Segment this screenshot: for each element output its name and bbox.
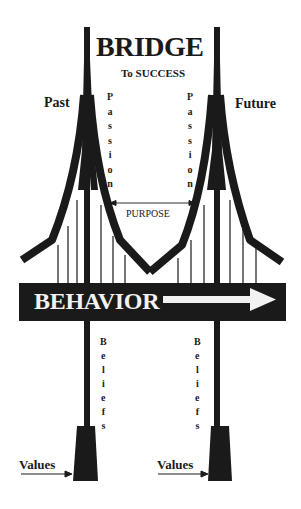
future-label: Future — [235, 97, 276, 111]
right-tower — [214, 27, 220, 427]
left-pedestal — [73, 426, 98, 481]
passion-label-right: P a s s i o n — [187, 90, 193, 192]
pedestals — [73, 426, 232, 481]
past-label: Past — [44, 96, 70, 110]
purpose-label: PURPOSE — [126, 209, 170, 219]
beliefs-label-left: B e l i e f s — [100, 335, 107, 433]
purpose-span-arrow-icon — [110, 201, 195, 206]
values-label-right: Values — [157, 458, 193, 471]
values-left-arrow-icon — [65, 471, 72, 477]
diagram-title: BRIDGE — [96, 33, 203, 61]
diagram-subtitle: To SUCCESS — [121, 68, 185, 79]
values-right-arrow-icon — [201, 471, 208, 477]
values-label-left: Values — [19, 458, 55, 471]
beliefs-label-right: B e l i e f s — [194, 335, 201, 433]
passion-label-left: P a s s i o n — [107, 90, 113, 192]
left-tower — [84, 27, 90, 427]
behavior-label: BEHAVIOR — [34, 289, 159, 313]
right-pedestal — [208, 426, 232, 481]
